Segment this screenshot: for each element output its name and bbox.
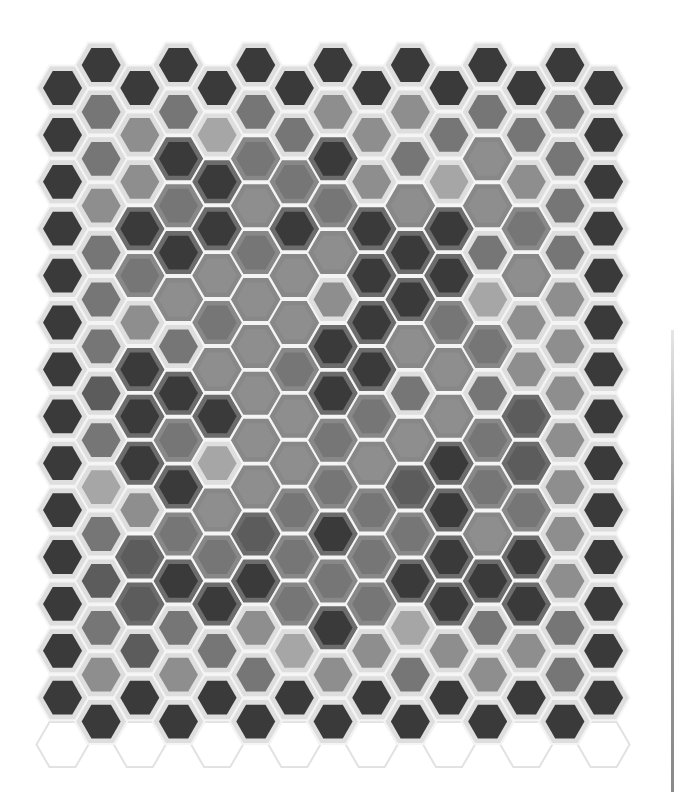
hex-grid — [37, 42, 630, 744]
window-edge-bar — [671, 330, 674, 792]
hex-mosaic — [0, 0, 676, 792]
